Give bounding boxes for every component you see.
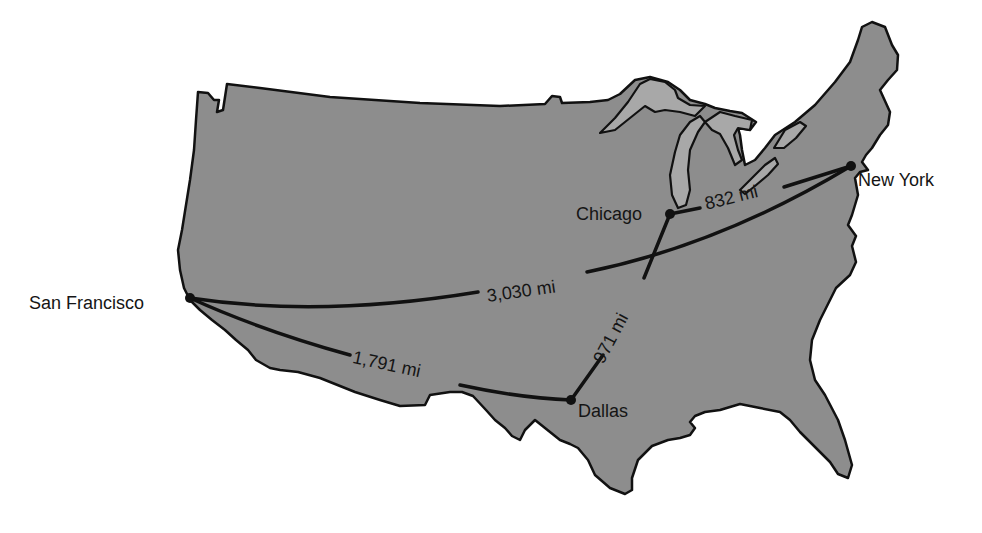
us-landmass <box>178 22 898 494</box>
city-dot-dallas <box>566 395 576 405</box>
us-map <box>0 0 982 533</box>
city-label-san-francisco: San Francisco <box>29 294 144 312</box>
city-label-new-york: New York <box>858 171 934 189</box>
city-dot-san-francisco <box>185 293 195 303</box>
city-dot-chicago <box>665 209 675 219</box>
city-dot-new-york <box>846 161 856 171</box>
city-label-chicago: Chicago <box>576 205 642 223</box>
city-label-dallas: Dallas <box>578 402 628 420</box>
